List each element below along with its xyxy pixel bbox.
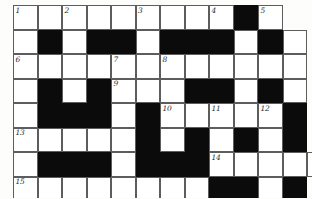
clue-number-9: 9 [114,79,118,88]
clue-number-3: 3 [138,6,142,15]
grid-open-cell[interactable] [62,30,87,55]
grid-block-cell [234,5,259,30]
grid-open-cell[interactable] [234,103,259,128]
grid-open-cell[interactable] [13,79,38,104]
grid-open-cell[interactable] [234,152,259,177]
grid-open-cell[interactable] [185,5,210,30]
grid-open-cell[interactable]: 14 [209,152,234,177]
grid-block-cell [136,128,161,153]
grid-open-cell[interactable] [111,177,136,199]
grid-open-cell[interactable]: 9 [111,79,136,104]
clue-number-2: 2 [65,6,69,15]
grid-open-cell[interactable] [234,79,259,104]
grid-open-cell[interactable] [136,177,161,199]
grid-open-cell[interactable] [87,54,112,79]
grid-open-cell[interactable] [160,79,185,104]
clue-number-10: 10 [163,104,172,113]
grid-open-cell[interactable]: 12 [258,103,283,128]
clue-number-15: 15 [16,177,25,186]
clue-number-1: 1 [16,6,20,15]
grid-block-cell [62,152,87,177]
clue-number-5: 5 [261,6,265,15]
grid-open-cell[interactable]: 15 [13,177,38,199]
grid-open-cell[interactable]: 1 [13,5,38,30]
clue-number-6: 6 [16,55,20,64]
grid-open-cell[interactable] [258,177,283,199]
grid-open-cell[interactable] [38,128,63,153]
grid-open-cell[interactable] [87,177,112,199]
grid-open-cell[interactable] [111,152,136,177]
grid-open-cell[interactable] [38,5,63,30]
grid-open-cell[interactable] [13,103,38,128]
grid-block-cell [87,30,112,55]
grid-open-cell[interactable] [283,54,308,79]
grid-open-cell[interactable] [283,79,308,104]
grid-open-cell[interactable] [87,5,112,30]
grid-open-cell[interactable] [209,54,234,79]
grid-open-cell[interactable] [283,152,308,177]
grid-open-cell[interactable] [234,30,259,55]
grid-open-cell[interactable] [111,103,136,128]
grid-block-cell [185,30,210,55]
grid-block-cell [87,79,112,104]
grid-open-cell[interactable]: 2 [62,5,87,30]
grid-open-cell[interactable] [283,30,308,55]
grid-block-cell [283,128,308,153]
grid-block-cell [283,177,308,199]
grid-open-cell[interactable]: 13 [13,128,38,153]
grid-open-cell[interactable] [160,177,185,199]
grid-block-cell [38,30,63,55]
grid-open-cell[interactable]: 10 [160,103,185,128]
grid-block-cell [258,79,283,104]
grid-open-cell[interactable] [38,54,63,79]
clue-number-13: 13 [16,128,25,137]
clue-number-8: 8 [163,55,167,64]
grid-block-cell [209,30,234,55]
grid-open-cell[interactable] [160,128,185,153]
grid-open-cell[interactable] [38,177,63,199]
grid-open-cell[interactable]: 4 [209,5,234,30]
grid-open-cell[interactable] [185,54,210,79]
grid-block-cell [38,79,63,104]
grid-open-cell[interactable] [136,54,161,79]
grid-block-cell [234,177,259,199]
grid-open-cell[interactable] [185,103,210,128]
grid-open-cell[interactable] [258,152,283,177]
grid-block-cell [111,30,136,55]
grid-open-cell[interactable] [209,128,234,153]
grid-block-cell [160,30,185,55]
grid-open-cell[interactable] [62,177,87,199]
grid-block-cell [185,79,210,104]
grid-open-cell[interactable] [185,177,210,199]
grid-open-cell[interactable] [62,54,87,79]
clue-number-4: 4 [212,6,216,15]
grid-open-cell[interactable] [62,128,87,153]
grid-open-cell[interactable] [111,128,136,153]
clue-number-11: 11 [212,104,221,113]
grid-block-cell [209,79,234,104]
grid-open-cell[interactable] [258,128,283,153]
grid-block-cell [283,103,308,128]
grid-open-cell[interactable] [258,54,283,79]
grid-open-cell[interactable] [13,152,38,177]
grid-open-cell[interactable]: 3 [136,5,161,30]
grid-open-cell[interactable] [234,54,259,79]
grid-open-cell[interactable] [136,30,161,55]
grid-block-cell [209,177,234,199]
grid-open-cell[interactable]: 8 [160,54,185,79]
clue-number-12: 12 [261,104,270,113]
grid-open-cell[interactable] [136,79,161,104]
grid-open-cell[interactable] [13,30,38,55]
grid-block-cell [160,152,185,177]
grid-open-cell[interactable] [160,5,185,30]
grid-open-cell[interactable] [62,79,87,104]
grid-open-cell[interactable]: 11 [209,103,234,128]
grid-open-cell[interactable] [87,128,112,153]
grid-block-cell [136,152,161,177]
grid-open-cell[interactable] [111,5,136,30]
grid-open-cell[interactable]: 7 [111,54,136,79]
grid-open-cell[interactable]: 5 [258,5,283,30]
grid-block-cell [136,103,161,128]
grid-open-cell[interactable]: 6 [13,54,38,79]
grid-open-cell[interactable] [307,152,312,177]
